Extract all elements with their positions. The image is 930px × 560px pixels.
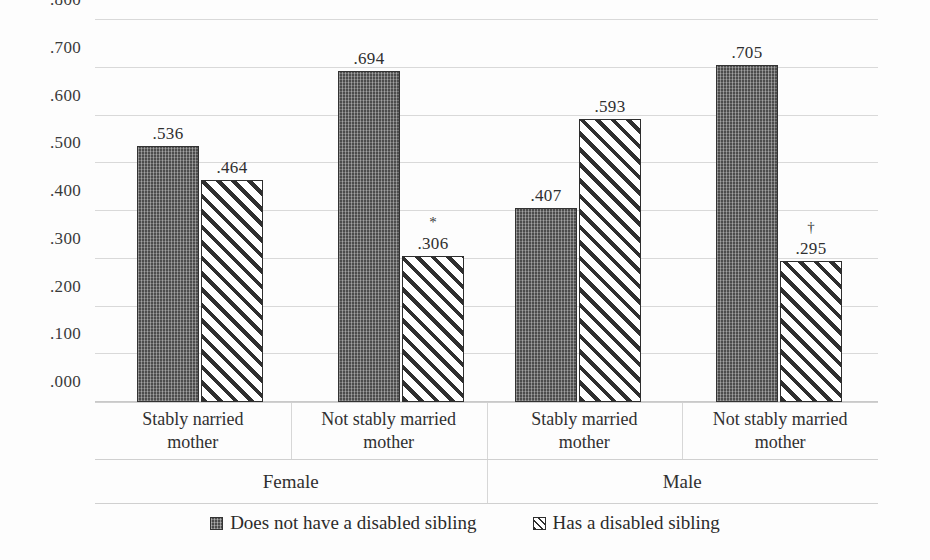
- legend-item-label: Has a disabled sibling: [553, 512, 720, 534]
- y-axis-tick-label: .100: [50, 324, 95, 344]
- category-separator: [291, 403, 292, 459]
- legend-swatch-dotted-icon: [210, 517, 223, 530]
- category-label: Not stably marriedmother: [682, 403, 878, 459]
- gridline: .800: [95, 19, 878, 20]
- category-label-band: Stably narriedmotherNot stably marriedmo…: [95, 402, 878, 460]
- bar-has-disabled-sibling: .295†: [780, 261, 842, 402]
- panel-label: Male: [487, 460, 879, 503]
- legend-item[interactable]: Has a disabled sibling: [533, 512, 720, 534]
- bar-has-disabled-sibling: .306*: [402, 256, 464, 402]
- y-axis-tick-label: .400: [50, 181, 95, 201]
- bar-value-label: .536: [153, 124, 184, 144]
- significance-marker: †: [807, 220, 815, 235]
- legend-swatch-hatched-icon: [533, 517, 546, 530]
- y-axis-tick-label: .800: [50, 0, 95, 10]
- bar-no-disabled-sibling: .407: [515, 208, 577, 402]
- chart-legend: Does not have a disabled siblingHas a di…: [0, 512, 930, 534]
- bar-has-disabled-sibling: .593: [579, 119, 641, 402]
- y-axis-tick-label: .600: [50, 86, 95, 106]
- bar-no-disabled-sibling: .705: [716, 65, 778, 402]
- y-axis-tick-label: .000: [50, 372, 95, 392]
- significance-marker: *: [429, 215, 437, 230]
- category-label-line1: Not stably married: [321, 408, 456, 431]
- y-axis-tick-label: .500: [50, 133, 95, 153]
- plot-area: .800.700.600.500.400.300.200.100.000 .53…: [95, 20, 878, 402]
- bar-value-label: .295: [796, 239, 827, 259]
- category-label-line2: mother: [321, 431, 456, 454]
- legend-item[interactable]: Does not have a disabled sibling: [210, 512, 476, 534]
- category-label: Stably narriedmother: [95, 403, 291, 459]
- category-label-line1: Stably narried: [142, 408, 243, 431]
- legend-item-label: Does not have a disabled sibling: [230, 512, 476, 534]
- category-separator: [487, 403, 488, 459]
- category-label: Not stably marriedmother: [291, 403, 487, 459]
- y-axis-tick-label: .200: [50, 277, 95, 297]
- bar-no-disabled-sibling: .694: [338, 71, 400, 402]
- bar-no-disabled-sibling: .536: [137, 146, 199, 402]
- category-label-line2: mother: [531, 431, 637, 454]
- bar-value-label: .593: [595, 97, 626, 117]
- category-label-line2: mother: [142, 431, 243, 454]
- bar-has-disabled-sibling: .464: [201, 180, 263, 402]
- bar-value-label: .694: [354, 49, 385, 69]
- panel-label-band: FemaleMale: [95, 460, 878, 504]
- category-separator: [682, 403, 683, 459]
- category-label-line1: Not stably married: [713, 408, 848, 431]
- bar-value-label: .705: [732, 43, 763, 63]
- y-axis-tick-label: .300: [50, 229, 95, 249]
- bar-value-label: .407: [531, 186, 562, 206]
- panel-label: Female: [95, 460, 487, 503]
- panel-separator: [487, 460, 488, 503]
- bar-chart: .800.700.600.500.400.300.200.100.000 .53…: [0, 0, 930, 560]
- y-axis-tick-label: .700: [50, 38, 95, 58]
- panel-label-text: Female: [263, 471, 319, 493]
- category-label-line2: mother: [713, 431, 848, 454]
- category-label: Stably marriedmother: [487, 403, 683, 459]
- category-label-line1: Stably married: [531, 408, 637, 431]
- panel-label-text: Male: [663, 471, 702, 493]
- bar-value-label: .306: [418, 234, 449, 254]
- bar-value-label: .464: [217, 158, 248, 178]
